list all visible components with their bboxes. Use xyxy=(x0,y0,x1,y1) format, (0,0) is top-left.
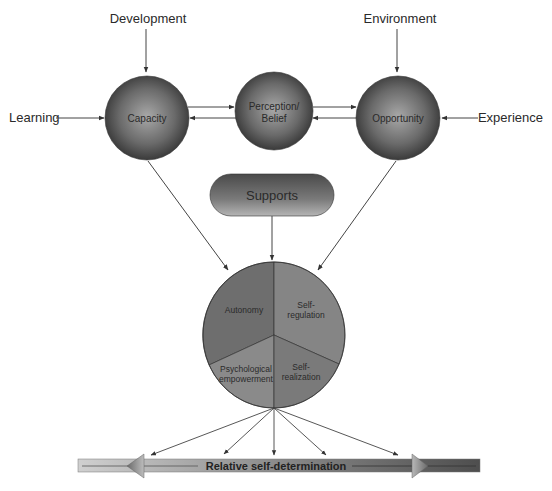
self-determination-diagram: Development Environment Learning Experie… xyxy=(0,0,552,491)
self-realization-label-line2: realization xyxy=(282,372,321,382)
self-realization-label-line1: Self- xyxy=(292,362,310,372)
experience-label: Experience xyxy=(478,110,543,125)
self-regulation-label-line2: regulation xyxy=(287,310,325,320)
learning-label: Learning xyxy=(9,110,60,125)
capacity-label: Capacity xyxy=(128,113,167,124)
right-arrowhead-icon xyxy=(412,454,428,478)
left-arrowhead-icon xyxy=(127,454,144,478)
psychological-empowerment-label-line1: Psychological xyxy=(220,364,272,374)
self-regulation-label-line1: Self- xyxy=(297,300,315,310)
capacity-node: Capacity xyxy=(105,76,189,160)
fan-arrows xyxy=(151,408,398,455)
continuum-label: Relative self-determination xyxy=(206,460,347,472)
opportunity-node: Opportunity xyxy=(356,76,440,160)
self-determination-pie: Autonomy Self- regulation Psychological … xyxy=(203,262,345,408)
opportunity-label: Opportunity xyxy=(372,113,424,124)
supports-node: Supports xyxy=(210,174,334,216)
relative-self-determination-continuum: Relative self-determination xyxy=(78,454,480,478)
opportunity-to-pie-arrow xyxy=(318,161,396,270)
capacity-to-pie-arrow xyxy=(148,161,228,270)
development-label: Development xyxy=(110,11,187,26)
supports-label: Supports xyxy=(246,188,299,203)
perception-label-line2: Belief xyxy=(261,113,286,124)
perception-label-line1: Perception/ xyxy=(249,101,300,112)
autonomy-label: Autonomy xyxy=(225,305,264,315)
environment-label: Environment xyxy=(364,11,437,26)
psychological-empowerment-label-line2: empowerment xyxy=(219,374,273,384)
perception-belief-node: Perception/ Belief xyxy=(235,72,313,150)
